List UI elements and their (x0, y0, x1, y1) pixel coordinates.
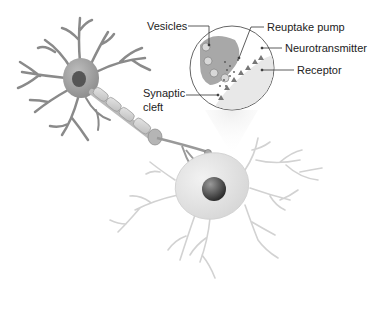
postsynaptic-nucleus (202, 177, 226, 201)
synapse-magnifier (190, 26, 285, 120)
label-synaptic-cleft-line2: cleft (143, 101, 163, 113)
presynaptic-nucleus (72, 71, 86, 87)
label-reuptake-pump: Reuptake pump (267, 21, 345, 33)
synapse-diagram: Vesicles Reuptake pump Neurotransmitter … (0, 0, 382, 319)
magnifier-beam (205, 110, 258, 155)
label-receptor: Receptor (297, 64, 342, 76)
label-synaptic-cleft-line1: Synaptic (143, 87, 186, 99)
label-vesicles: Vesicles (147, 20, 188, 32)
label-neurotransmitter: Neurotransmitter (285, 42, 367, 54)
